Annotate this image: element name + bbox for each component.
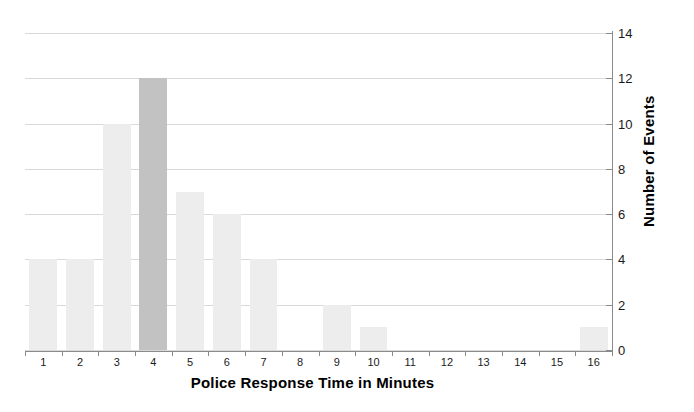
x-tick-mark (355, 351, 356, 356)
x-tick-mark (282, 351, 283, 356)
bar-4 (139, 78, 167, 350)
x-tick-label-11: 11 (405, 357, 416, 368)
x-tick-label-2: 2 (77, 357, 83, 368)
x-tick-label-16: 16 (588, 357, 600, 368)
x-tick-label-10: 10 (367, 357, 379, 368)
bar-7 (250, 259, 278, 350)
bar-3 (103, 124, 131, 350)
x-tick-label-15: 15 (551, 357, 563, 368)
x-tick-label-6: 6 (224, 357, 230, 368)
y-tick-mark (606, 124, 613, 125)
x-tick-label-4: 4 (150, 357, 156, 368)
x-tick-mark (25, 351, 26, 356)
x-tick-mark (208, 351, 209, 356)
y-tick-mark (606, 214, 613, 215)
x-axis-title: Police Response Time in Minutes (0, 374, 625, 391)
y-tick-mark (606, 33, 613, 34)
bar-chart: 02468101214 12345678910111213141516 Poli… (0, 0, 694, 412)
x-tick-mark (575, 351, 576, 356)
x-tick-label-7: 7 (260, 357, 266, 368)
y-tick-mark (606, 78, 613, 79)
y-tick-label-12: 12 (618, 72, 632, 85)
x-tick-mark (539, 351, 540, 356)
bar-16 (580, 327, 608, 350)
x-tick-mark (319, 351, 320, 356)
x-tick-mark (135, 351, 136, 356)
bar-1 (29, 259, 57, 350)
x-tick-label-8: 8 (297, 357, 303, 368)
x-tick-mark (392, 351, 393, 356)
y-tick-label-14: 14 (618, 27, 632, 40)
y-tick-label-10: 10 (618, 117, 632, 130)
x-tick-mark (172, 351, 173, 356)
x-tick-mark (465, 351, 466, 356)
bar-6 (213, 214, 241, 350)
x-tick-label-3: 3 (114, 357, 120, 368)
y-tick-label-8: 8 (618, 162, 625, 175)
plot-area (25, 33, 612, 350)
x-tick-label-1: 1 (40, 357, 46, 368)
bar-2 (66, 259, 94, 350)
bar-5 (176, 192, 204, 351)
x-tick-mark (245, 351, 246, 356)
x-tick-mark (429, 351, 430, 356)
y-tick-label-0: 0 (618, 344, 625, 357)
y-tick-mark (606, 259, 613, 260)
y-tick-mark (606, 305, 613, 306)
x-tick-mark (98, 351, 99, 356)
x-tick-label-9: 9 (334, 357, 340, 368)
y-tick-label-2: 2 (618, 298, 625, 311)
x-tick-label-12: 12 (441, 357, 453, 368)
y-tick-label-4: 4 (618, 253, 625, 266)
x-tick-label-13: 13 (477, 357, 489, 368)
x-tick-mark (502, 351, 503, 356)
y-tick-mark (606, 169, 613, 170)
x-tick-label-5: 5 (187, 357, 193, 368)
bars-group (25, 33, 612, 350)
x-tick-mark (612, 351, 613, 356)
x-tick-label-14: 14 (514, 357, 526, 368)
bar-9 (323, 305, 351, 350)
y-tick-label-6: 6 (618, 208, 625, 221)
bar-10 (360, 327, 388, 350)
y-axis-title: Number of Events (636, 36, 660, 286)
x-tick-mark (62, 351, 63, 356)
